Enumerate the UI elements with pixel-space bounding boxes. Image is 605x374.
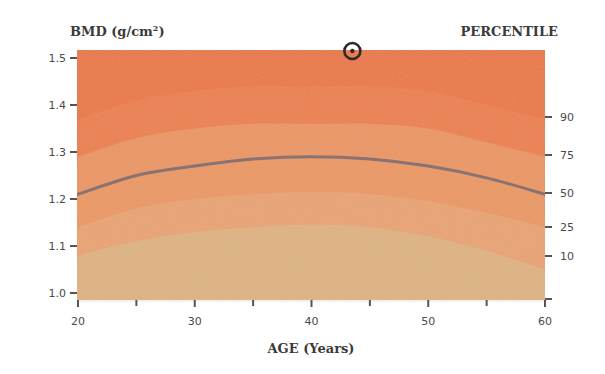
percentile-tick-label: 50 — [560, 187, 574, 200]
x-tick-label: 20 — [71, 315, 85, 328]
percentile-axis: 9075502510 — [545, 111, 574, 299]
y-tick-label: 1.2 — [49, 193, 67, 206]
y-axis: 1.01.11.21.31.41.5 — [49, 52, 78, 300]
y-tick-label: 1.0 — [49, 287, 67, 300]
y-tick-label: 1.5 — [49, 52, 67, 65]
x-tick-label: 60 — [538, 315, 552, 328]
bmd-chart: 1.01.11.21.31.41.5 2030405060 9075502510… — [0, 0, 605, 374]
percentile-axis-label: PERCENTILE — [461, 24, 559, 39]
patient-marker-dot — [350, 49, 354, 53]
y-tick-label: 1.4 — [49, 99, 67, 112]
y-axis-label: BMD (g/cm2) — [70, 23, 165, 39]
percentile-tick-label: 75 — [560, 149, 574, 162]
y-tick-label: 1.1 — [49, 240, 67, 253]
percentile-tick-label: 90 — [560, 111, 574, 124]
percentile-tick-label: 25 — [560, 221, 574, 234]
x-tick-label: 30 — [188, 315, 202, 328]
plot-area — [68, 40, 560, 320]
x-tick-label: 40 — [305, 315, 319, 328]
percentile-tick-label: 10 — [560, 250, 574, 263]
x-tick-label: 50 — [421, 315, 435, 328]
y-tick-label: 1.3 — [49, 146, 67, 159]
x-axis-label: AGE (Years) — [267, 341, 355, 356]
x-axis: 2030405060 — [71, 300, 552, 328]
